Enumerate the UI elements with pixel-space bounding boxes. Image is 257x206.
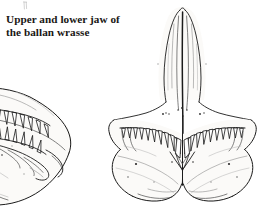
stray-ink-mark-icon bbox=[22, 1, 29, 10]
palate-skull-illustration bbox=[108, 4, 257, 206]
figure-page: Upper and lower jaw of the ballan wrasse bbox=[0, 0, 257, 206]
lateral-jaw-illustration bbox=[0, 84, 90, 206]
